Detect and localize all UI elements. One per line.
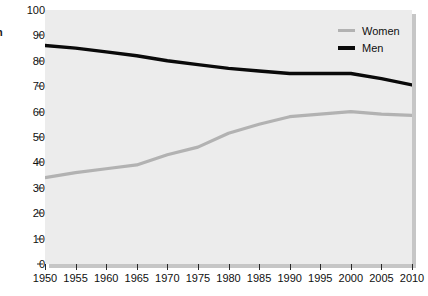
x-tick-mark	[259, 264, 260, 270]
series-line-women	[45, 112, 412, 178]
x-tick-mark	[106, 264, 107, 270]
x-tick-mark	[198, 264, 199, 270]
x-tick-label: 1970	[155, 272, 179, 284]
x-tick-label: 1950	[33, 272, 57, 284]
x-tick-label: 1960	[94, 272, 118, 284]
x-tick-label: 1965	[125, 272, 149, 284]
x-tick-mark	[229, 264, 230, 270]
x-tick-label: 2010	[400, 272, 424, 284]
legend-item-women: Women	[338, 22, 422, 39]
x-tick-label: 2000	[339, 272, 363, 284]
x-tick-mark	[290, 264, 291, 270]
x-tick-label: 1990	[277, 272, 301, 284]
x-tick-mark	[167, 264, 168, 270]
x-tick-label: 1995	[308, 272, 332, 284]
x-tick-label: 1975	[186, 272, 210, 284]
legend-item-men: Men	[338, 39, 422, 56]
women-line-swatch	[338, 29, 355, 32]
x-tick-mark	[381, 264, 382, 270]
men-line-swatch	[338, 46, 355, 50]
x-tick-mark	[412, 264, 413, 270]
legend-label-men: Men	[362, 42, 383, 54]
x-tick-label: 2005	[369, 272, 393, 284]
legend-label-women: Women	[362, 25, 400, 37]
x-tick-label: 1955	[63, 272, 87, 284]
x-tick-label: 1985	[247, 272, 271, 284]
x-tick-mark	[320, 264, 321, 270]
x-tick-label: 1980	[216, 272, 240, 284]
line-chart: n 0102030405060708090100 195019551960196…	[0, 0, 428, 296]
chart-legend: Women Men	[338, 22, 422, 56]
x-tick-mark	[45, 264, 46, 270]
x-tick-mark	[76, 264, 77, 270]
x-tick-mark	[351, 264, 352, 270]
x-tick-mark	[137, 264, 138, 270]
